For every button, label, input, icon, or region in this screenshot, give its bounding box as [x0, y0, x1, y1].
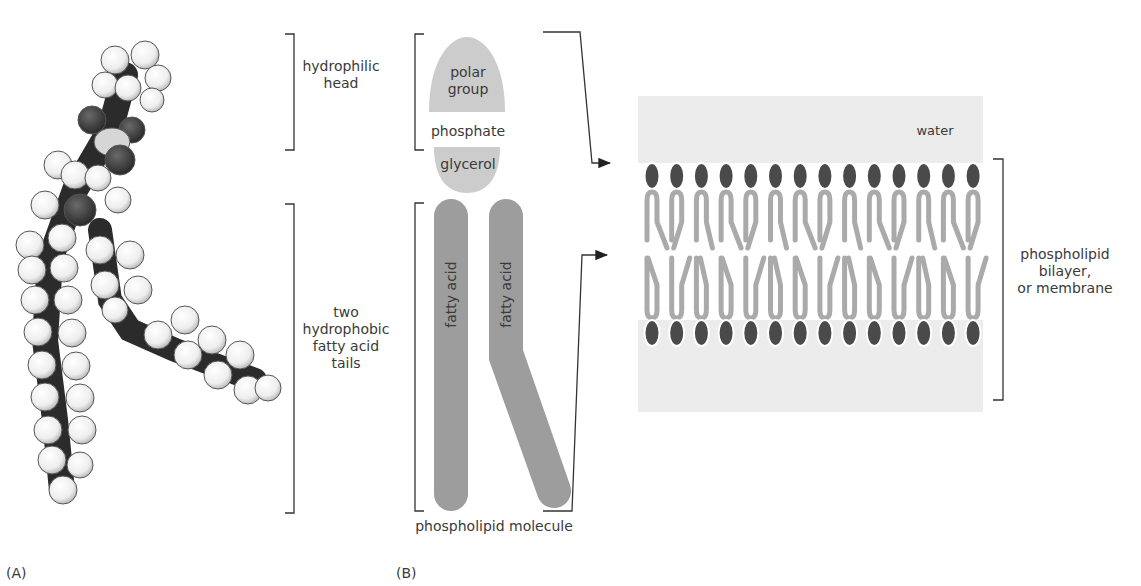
lipid-head	[842, 163, 857, 189]
hydrophobic-tails-label: two hydrophobic fatty acid tails	[296, 304, 396, 372]
lipid-tail	[869, 192, 889, 248]
lipid-head	[719, 320, 734, 346]
lipid-tail	[647, 258, 657, 318]
lipid-head	[645, 163, 660, 189]
bracket-schematic-tails	[415, 203, 424, 511]
lipid-head	[768, 320, 783, 346]
bilayer-diagram	[638, 96, 986, 412]
fatty-acid-label-2: fatty acid	[498, 255, 515, 335]
glycerol-label: glycerol	[426, 156, 510, 173]
lipid-tail	[647, 192, 667, 248]
hydrophilic-head-label: hydrophilic head	[296, 58, 386, 92]
lipid-tail	[869, 258, 879, 318]
lipid-head	[842, 320, 857, 346]
lipid-head	[719, 163, 734, 189]
lipid-tail	[721, 258, 731, 318]
label-line: tails	[296, 355, 396, 372]
lipid-head	[941, 320, 956, 346]
label-line: polar	[430, 64, 506, 81]
lipid-head	[669, 320, 684, 346]
lipid-tail	[894, 192, 904, 248]
lipid-head	[793, 163, 808, 189]
lipid-tail	[919, 258, 929, 318]
lipid-tail	[696, 192, 712, 248]
lipid-head	[941, 163, 956, 189]
lipid-head	[817, 163, 832, 189]
label-line: or membrane	[1010, 280, 1120, 297]
lipid-head	[892, 320, 907, 346]
lipid-head	[966, 320, 981, 346]
fatty-acid-tail-2	[489, 199, 571, 508]
lipid-tail	[771, 192, 787, 248]
lipid-tail	[820, 258, 838, 318]
lipid-tail	[746, 258, 764, 318]
lipid-head	[817, 320, 832, 346]
lipid-tail	[943, 192, 963, 248]
arrow-to-top-leaflet	[543, 32, 610, 163]
lipid-head	[694, 320, 709, 346]
bracket-tails	[285, 204, 294, 513]
lipid-tail	[820, 192, 830, 248]
lipid-head	[867, 163, 882, 189]
label-line: group	[430, 81, 506, 98]
fatty-acid-tail-1	[434, 199, 468, 511]
lipid-head	[645, 320, 660, 346]
lipid-tail	[968, 258, 986, 318]
lipid-tail	[968, 192, 978, 248]
label-line: phospholipid	[1010, 246, 1120, 263]
lipid-tail	[919, 192, 935, 248]
lipid-tail	[672, 192, 682, 248]
lipid-tail	[845, 258, 855, 318]
lipid-tail	[746, 192, 756, 248]
label-line: head	[296, 75, 386, 92]
label-line: hydrophilic	[296, 58, 386, 75]
panel-a-label: (A)	[6, 565, 36, 582]
lipid-head	[916, 320, 931, 346]
tail-rows	[647, 192, 986, 318]
lipid-head	[867, 320, 882, 346]
lipid-head	[669, 163, 684, 189]
lipid-tail	[845, 192, 861, 248]
lipid-tail	[672, 258, 690, 318]
label-line: hydrophobic	[296, 321, 396, 338]
phosphate-label: phosphate	[422, 123, 514, 140]
lipid-tail	[943, 258, 953, 318]
lipid-head	[743, 320, 758, 346]
lipid-head	[694, 163, 709, 189]
label-line: fatty acid	[296, 338, 396, 355]
bracket-head	[285, 34, 294, 150]
space-filling-model	[16, 41, 281, 504]
panel-b-label: (B)	[396, 565, 426, 582]
lipid-head	[916, 163, 931, 189]
label-line: bilayer,	[1010, 263, 1120, 280]
lipid-tail	[795, 258, 805, 318]
water-label: water	[905, 122, 965, 139]
diagram-canvas	[0, 0, 1141, 586]
lipid-head	[966, 163, 981, 189]
label-line: two	[296, 304, 396, 321]
phospholipid-molecule-caption: phospholipid molecule	[404, 518, 584, 535]
top-head-row	[645, 163, 981, 189]
lipid-head	[892, 163, 907, 189]
bilayer-label: phospholipid bilayer, or membrane	[1010, 246, 1120, 297]
lipid-tail	[696, 258, 706, 318]
lipid-tail	[795, 192, 815, 248]
lipid-head	[743, 163, 758, 189]
fatty-acid-label-1: fatty acid	[443, 255, 460, 335]
lipid-tail	[771, 258, 781, 318]
lipid-head	[768, 163, 783, 189]
lipid-head	[793, 320, 808, 346]
polar-group-label: polar group	[430, 64, 506, 98]
lipid-tail	[894, 258, 912, 318]
bracket-bilayer	[993, 159, 1003, 400]
lipid-tail	[721, 192, 741, 248]
